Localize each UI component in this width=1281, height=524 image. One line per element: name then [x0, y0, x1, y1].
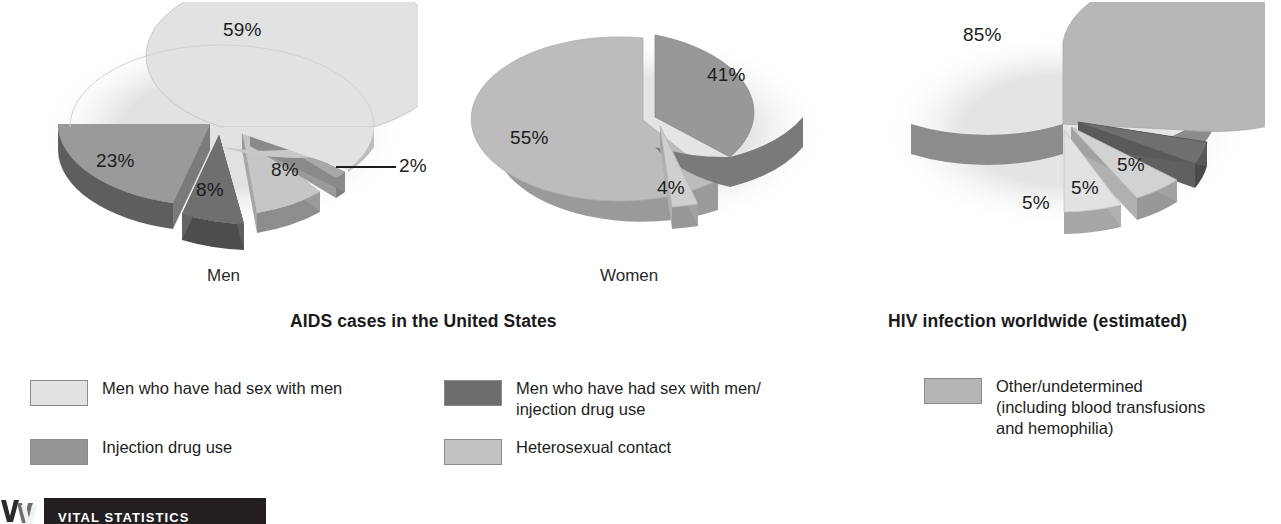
legend-label-heterosexual: Heterosexual contact	[516, 437, 671, 458]
pie-world-label-2: 5%	[1071, 177, 1099, 199]
legend-label-msm-idu: Men who have had sex with men/ injection…	[516, 378, 761, 420]
section-title-world: HIV infection worldwide (estimated)	[888, 311, 1187, 332]
pie-men-label-1: 23%	[96, 150, 135, 172]
legend-swatch-msm	[30, 380, 88, 406]
pie-chart-worldwide: 85% 5% 5% 5%	[865, 2, 1265, 252]
pie-men-svg	[18, 2, 418, 252]
figure-canvas: 59% 23% 8% 8% 2% Men	[0, 0, 1281, 524]
legend-swatch-msm-idu	[444, 380, 502, 406]
pie-world-label-0: 85%	[963, 24, 1002, 46]
pie-women-label-2: 4%	[657, 177, 685, 199]
legend-swatch-other	[924, 378, 982, 404]
pie-worldwide-svg	[865, 2, 1265, 252]
pie-chart-men: 59% 23% 8% 8% 2%	[18, 2, 418, 252]
legend-label-idu: Injection drug use	[102, 437, 232, 458]
pie-men-label-0: 59%	[223, 19, 262, 41]
pie-men-label-3: 8%	[271, 159, 299, 181]
pie-world-label-3: 5%	[1022, 192, 1050, 214]
legend-item-other[interactable]: Other/undetermined (including blood tran…	[924, 376, 1264, 439]
vital-statistics-banner: VITAL STATISTICS	[0, 498, 266, 524]
legend-swatch-idu	[30, 439, 88, 465]
legend-item-msm-idu[interactable]: Men who have had sex with men/ injection…	[444, 378, 844, 420]
pie-world-label-1: 5%	[1117, 154, 1145, 176]
pie-men-label-4: 2%	[399, 155, 427, 177]
caption-women: Women	[600, 266, 658, 286]
legend-swatch-heterosexual	[444, 439, 502, 465]
pie-men-label-2: 8%	[196, 179, 224, 201]
legend-label-msm: Men who have had sex with men	[102, 378, 342, 399]
pie-chart-women: 41% 55% 4%	[450, 2, 850, 252]
legend-item-msm[interactable]: Men who have had sex with men	[30, 378, 430, 406]
pie-women-label-0: 41%	[707, 64, 746, 86]
banner-logo-icon	[0, 498, 44, 524]
banner-title: VITAL STATISTICS	[58, 510, 189, 524]
pie-women-label-1: 55%	[510, 127, 549, 149]
legend-label-other: Other/undetermined (including blood tran…	[996, 376, 1205, 439]
section-title-us: AIDS cases in the United States	[290, 311, 557, 332]
legend-item-idu[interactable]: Injection drug use	[30, 437, 430, 465]
banner-bar: VITAL STATISTICS	[44, 498, 266, 524]
caption-men: Men	[207, 266, 240, 286]
legend-item-heterosexual[interactable]: Heterosexual contact	[444, 437, 844, 465]
